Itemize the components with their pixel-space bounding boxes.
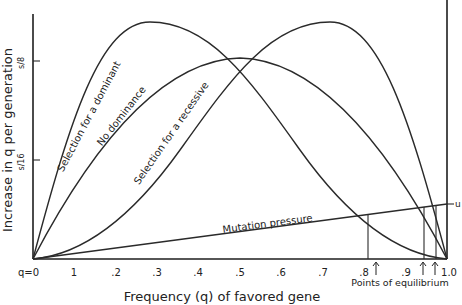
x-tick-5: .5 [235, 267, 245, 278]
x-tick-6: .6 [276, 267, 286, 278]
x-tick-3: .3 [152, 267, 162, 278]
selection-curves-chart: s/8 s/16 Increase in q per generation q=… [0, 0, 462, 305]
y-axis-label: Increase in q per generation [0, 48, 15, 232]
x-axis-label: Frequency (q) of favored gene [124, 289, 321, 304]
label-mutation: Mutation pressure [222, 212, 313, 235]
equilibrium-label: Points of equilibrium [351, 277, 448, 288]
y-tick-label-s8: s/8 [17, 57, 26, 69]
x-tick-4: .4 [193, 267, 203, 278]
x-tick-7: .7 [318, 267, 328, 278]
x-tick-2: .2 [111, 267, 121, 278]
y-tick-label-s16: s/16 [17, 153, 26, 170]
x-tick-0: q=0 [18, 267, 39, 278]
mutation-end-label: u [455, 199, 461, 209]
x-tick-1: 1 [71, 267, 77, 278]
label-dominant: Selection for a dominant [55, 59, 123, 173]
